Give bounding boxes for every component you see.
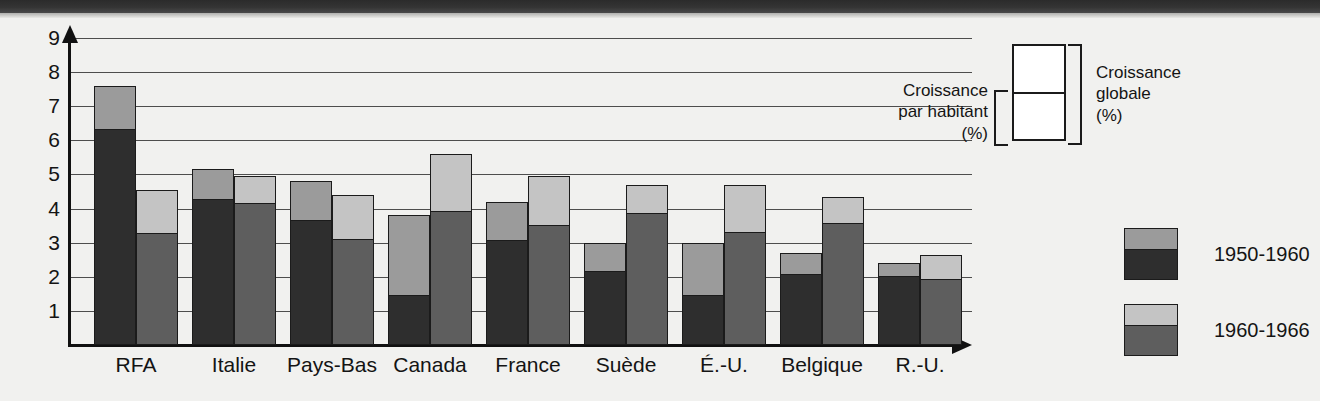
bar-segment-global-growth [487,203,527,241]
bar-segment-per-capita-growth [823,223,863,344]
bar-segment-per-capita-growth [921,279,961,344]
bar-segment-per-capita-growth [291,220,331,344]
bar-segment-per-capita-growth [333,239,373,344]
bar [878,263,920,345]
legend-swatch-global-growth [1125,305,1177,325]
bar-segment-global-growth [193,170,233,199]
legend-period-row: 1950-1960 [1124,228,1310,280]
x-axis-category-labels: RFAItaliePays-BasCanadaFranceSuèdeÉ.-U.B… [68,352,972,386]
bar-segment-global-growth [921,256,961,280]
bar [724,185,766,345]
chart-figure: 123456789 RFAItaliePays-BasCanadaFranceS… [0,0,1320,401]
bar-segment-global-growth [879,264,919,276]
bar-group [682,38,766,345]
bar [332,195,374,345]
bar [682,243,724,345]
bar-segment-per-capita-growth [725,232,765,344]
legend-per-capita-bracket [994,90,1008,146]
bar-segment-global-growth [389,216,429,294]
bar-segment-global-growth [431,155,471,211]
bar-segment-global-growth [95,87,135,130]
bar-segment-per-capita-growth [193,199,233,344]
legend-swatch [1124,228,1178,280]
legend-schematic-divider [1014,92,1064,94]
y-axis-tick-label: 7 [26,95,60,116]
legend-global-label: Croissanceglobale(%) [1096,62,1246,126]
page-top-rule-shadow [0,13,1320,18]
bar [528,176,570,345]
bar [486,202,528,345]
bar [920,255,962,345]
bar-segment-per-capita-growth [487,240,527,344]
bar-segment-per-capita-growth [627,213,667,344]
bar [584,243,626,345]
legend-period-label: 1950-1960 [1214,243,1310,266]
legend-period-label: 1960-1966 [1214,319,1310,342]
y-axis-tick-label: 6 [26,129,60,150]
y-axis-tick-label: 5 [26,163,60,184]
x-axis-category-label: R.-U. [854,352,986,377]
bar [94,86,136,345]
legend-period-row: 1960-1966 [1124,304,1310,356]
bar-segment-per-capita-growth [879,276,919,344]
legend-swatch-per-capita-growth [1125,249,1177,279]
bar-segment-per-capita-growth [781,274,821,344]
bar-segment-global-growth [781,254,821,274]
bar-segment-global-growth [137,191,177,234]
bar-group [584,38,668,345]
bar-group [192,38,276,345]
bar [822,197,864,345]
bar-segment-per-capita-growth [389,295,429,344]
legend-per-capita-label: Croissancepar habitant(%) [870,80,988,144]
y-axis-tick-label: 3 [26,232,60,253]
bar [430,154,472,345]
bar-segment-per-capita-growth [137,233,177,344]
page-top-rule [0,0,1320,13]
bar-segment-global-growth [683,244,723,295]
bar-group [780,38,864,345]
legend-swatch-global-growth [1125,229,1177,249]
bar-segment-per-capita-growth [95,129,135,344]
bar-segment-per-capita-growth [235,203,275,344]
bar-group [486,38,570,345]
legend-schematic-bar [1012,44,1066,141]
bar-segment-per-capita-growth [431,211,471,344]
bar [626,185,668,345]
bar [136,190,178,345]
bar [192,169,234,345]
bar-segment-global-growth [235,177,275,203]
y-axis-tick-label: 9 [26,27,60,48]
bar-segment-global-growth [627,186,667,213]
bar-group [290,38,374,345]
bar-group [388,38,472,345]
bar-segment-per-capita-growth [529,225,569,344]
legend-global-bracket [1068,44,1082,145]
bar-group [94,38,178,345]
bar [388,215,430,345]
legend-swatch [1124,304,1178,356]
bar [290,181,332,345]
bar [234,176,276,345]
bar-segment-global-growth [529,177,569,225]
y-axis-tick-label: 1 [26,300,60,321]
legend-swatch-per-capita-growth [1125,325,1177,355]
y-axis-tick-label: 4 [26,198,60,219]
y-axis-tick-label: 8 [26,61,60,82]
bar-segment-global-growth [725,186,765,232]
bar-segment-global-growth [823,198,863,224]
bar-segment-global-growth [291,182,331,220]
bar-segment-global-growth [333,196,373,239]
bar [780,253,822,345]
bar-segment-global-growth [585,244,625,271]
y-axis-tick-label: 2 [26,266,60,287]
bar-segment-per-capita-growth [585,271,625,344]
bar-segment-per-capita-growth [683,295,723,344]
bar-series-container [68,38,972,345]
